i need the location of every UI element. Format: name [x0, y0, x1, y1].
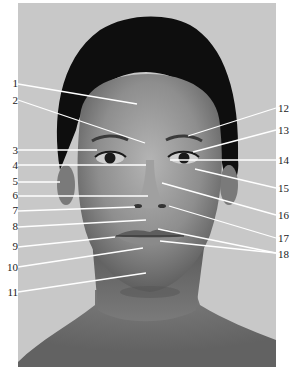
label-11: 11 — [2, 287, 18, 298]
label-4: 4 — [2, 160, 18, 171]
left-ear — [57, 165, 75, 205]
label-5: 5 — [2, 176, 18, 187]
label-17: 17 — [278, 233, 289, 244]
label-3: 3 — [2, 145, 18, 156]
label-16: 16 — [278, 210, 289, 221]
label-2: 2 — [2, 95, 18, 106]
label-7: 7 — [2, 205, 18, 216]
label-9: 9 — [2, 241, 18, 252]
label-8: 8 — [2, 221, 18, 232]
label-14: 14 — [278, 155, 289, 166]
face-photo — [0, 0, 292, 373]
label-15: 15 — [278, 183, 289, 194]
label-13: 13 — [278, 125, 289, 136]
label-18: 18 — [278, 249, 289, 260]
label-10: 10 — [2, 262, 18, 273]
face-diagram: 123456789101112131415161718 — [0, 0, 292, 373]
right-ear — [220, 165, 238, 205]
label-6: 6 — [2, 190, 18, 201]
label-12: 12 — [278, 103, 289, 114]
label-1: 1 — [2, 78, 18, 89]
